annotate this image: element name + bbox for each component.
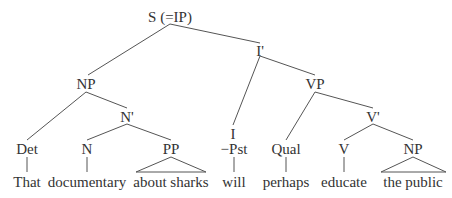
node-i-bar: I'	[256, 43, 264, 59]
tree-branches	[0, 0, 452, 198]
tree-branch	[233, 56, 260, 125]
tree-branch	[260, 56, 315, 75]
word-documentary: documentary	[48, 174, 126, 190]
syntax-tree-diagram: S (=IP) I' NP VP N' V' Det N PP I −Pst Q…	[0, 0, 452, 198]
node-s-ip: S (=IP)	[148, 9, 192, 25]
word-educate: educate	[321, 174, 367, 190]
node-qual: Qual	[271, 141, 300, 157]
tree-branch	[86, 92, 127, 108]
node-np-subject: NP	[76, 76, 95, 92]
phrase-triangle	[381, 157, 446, 172]
tree-branch	[344, 124, 373, 140]
word-will: will	[222, 174, 245, 190]
tree-branch	[127, 124, 171, 140]
tree-branch	[88, 24, 170, 75]
node-np-object: NP	[403, 141, 422, 157]
word-about-sharks: about sharks	[133, 174, 208, 190]
word-that: That	[13, 174, 41, 190]
tree-branch	[286, 92, 315, 140]
word-perhaps: perhaps	[263, 174, 310, 190]
node-minus-pst: −Pst	[221, 141, 248, 157]
node-i: I	[231, 126, 236, 142]
word-the-public: the public	[383, 174, 443, 190]
tree-branch	[315, 92, 373, 108]
node-n: N	[82, 141, 93, 157]
tree-branch	[373, 124, 413, 140]
tree-branch	[170, 24, 260, 43]
phrase-triangle	[136, 157, 206, 172]
node-vp: VP	[305, 76, 324, 92]
tree-branch	[87, 124, 127, 140]
node-pp: PP	[163, 141, 180, 157]
node-det: Det	[16, 141, 38, 157]
node-n-bar: N'	[120, 109, 134, 125]
tree-branch	[27, 92, 86, 140]
node-v: V	[339, 141, 350, 157]
node-v-bar: V'	[366, 109, 380, 125]
